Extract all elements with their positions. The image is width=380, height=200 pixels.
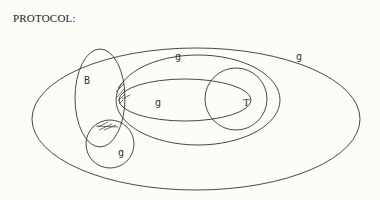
middle-ellipse <box>116 55 280 145</box>
outer-ellipse <box>32 48 360 190</box>
hatch-upper <box>116 83 130 104</box>
b-ellipse <box>75 49 125 147</box>
label-t: T <box>243 96 250 108</box>
label-middle-g: g <box>175 51 181 62</box>
inner-ellipse <box>119 79 251 121</box>
protocol-diagram: g g g B T g <box>0 0 380 200</box>
label-b: B <box>84 75 90 86</box>
hatch-lower <box>96 122 118 130</box>
t-circle <box>205 68 267 130</box>
label-inner-g: g <box>155 97 161 108</box>
label-small-g: g <box>118 147 124 158</box>
label-outer-g: g <box>296 51 302 62</box>
